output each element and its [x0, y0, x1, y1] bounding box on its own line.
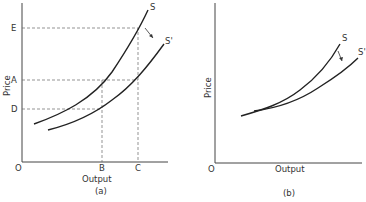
- supply-curve-S: [241, 44, 340, 116]
- x-axis-label: Output: [275, 164, 305, 174]
- arrowhead-icon: [339, 57, 343, 61]
- curve-label-S: S: [150, 2, 155, 12]
- supply-curve-S-prime: [48, 44, 164, 130]
- y-axis-label: Price: [2, 75, 12, 96]
- curve-label-S-prime: S': [165, 36, 173, 46]
- panel-b: S S' O Output (b) Price: [203, 3, 366, 198]
- panel-caption: (b): [283, 188, 295, 198]
- y-axis-label: Price: [203, 77, 213, 98]
- panel-a: S S' E A D O B C Output (a) Price: [2, 2, 173, 196]
- x-axis-label: Output: [82, 174, 112, 184]
- curve-label-S-prime: S': [358, 47, 366, 57]
- supply-curve-S: [34, 10, 148, 124]
- y-tick-E: E: [11, 23, 16, 33]
- origin-label: O: [208, 164, 215, 174]
- origin-label: O: [15, 163, 22, 173]
- arrowhead-icon: [149, 34, 153, 38]
- guide-line-E-C: [22, 28, 138, 162]
- x-tick-C: C: [135, 163, 141, 173]
- panel-caption: (a): [95, 186, 107, 196]
- supply-shift-diagram: S S' E A D O B C Output (a) Price S S' O…: [0, 0, 366, 202]
- y-tick-D: D: [11, 104, 18, 114]
- curve-label-S: S: [342, 33, 347, 43]
- x-tick-B: B: [99, 163, 105, 173]
